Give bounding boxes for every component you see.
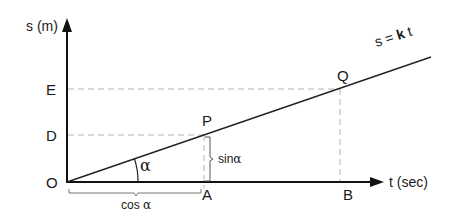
point-label-origin: O bbox=[46, 175, 58, 190]
angle-arc bbox=[135, 159, 139, 182]
sin-label-greek: α bbox=[233, 152, 241, 166]
x-axis-label: t (sec) bbox=[389, 175, 428, 189]
y-axis-label: s (m) bbox=[26, 19, 58, 33]
x-axis-arrow-icon bbox=[370, 177, 384, 187]
point-label-Q: Q bbox=[337, 68, 349, 83]
line-s-equals-kt bbox=[67, 57, 431, 182]
y-axis-arrow-icon bbox=[62, 18, 72, 32]
cos-alpha-label: cos α bbox=[121, 199, 151, 211]
point-label-P: P bbox=[202, 113, 212, 128]
sin-brace bbox=[205, 137, 213, 181]
point-label-D: D bbox=[46, 128, 57, 143]
cos-label-text: cos bbox=[121, 198, 143, 212]
cos-label-greek: α bbox=[143, 198, 151, 212]
point-label-B: B bbox=[343, 187, 353, 202]
angle-label-alpha: α bbox=[140, 158, 151, 174]
point-label-E: E bbox=[46, 82, 56, 97]
sin-alpha-label: sinα bbox=[218, 153, 241, 165]
cos-brace bbox=[69, 189, 201, 196]
point-label-A: A bbox=[202, 187, 212, 202]
sin-label-text: sin bbox=[218, 152, 233, 166]
